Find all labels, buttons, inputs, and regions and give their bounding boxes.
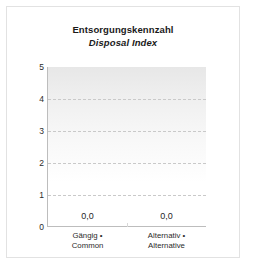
bar-value-label-alternative: 0,0: [127, 211, 206, 221]
x-category-common-line-2: Common: [48, 241, 127, 251]
y-tick-label-2: 2: [32, 159, 44, 167]
plot-area: 0,0 0,0: [48, 67, 206, 227]
chart-subtitle: Disposal Index: [7, 36, 239, 49]
y-tick-label-5: 5: [32, 63, 44, 71]
y-tick-label-4: 4: [32, 95, 44, 103]
x-category-alternative-line-2: Alternative: [127, 241, 206, 251]
gridline-4: [48, 99, 206, 100]
gridline-1: [48, 195, 206, 196]
chart-title-block: Entsorgungskennzahl Disposal Index: [7, 24, 239, 49]
plot-area-wrapper: 0,0 0,0: [47, 67, 206, 227]
x-category-common: Gängig • Common: [48, 231, 127, 251]
y-tick-label-0: 0: [32, 223, 44, 231]
x-category-common-line-1: Gängig •: [48, 231, 127, 241]
y-tick-label-3: 3: [32, 127, 44, 135]
x-category-alternative: Alternativ • Alternative: [127, 231, 206, 251]
x-category-alternative-line-1: Alternativ •: [127, 231, 206, 241]
gridline-2: [48, 163, 206, 164]
page-title: Entsorgungskennzahl: [7, 24, 239, 36]
chart-card: Entsorgungskennzahl Disposal Index 5 4 3…: [6, 6, 240, 258]
y-tick-label-1: 1: [32, 191, 44, 199]
x-axis-category-labels: Gängig • Common Alternativ • Alternative: [48, 231, 206, 251]
x-axis-category-tick: [127, 223, 128, 227]
y-axis-tick-labels: 5 4 3 2 1 0: [31, 67, 44, 227]
gridline-3: [48, 131, 206, 132]
bar-value-label-common: 0,0: [48, 211, 127, 221]
